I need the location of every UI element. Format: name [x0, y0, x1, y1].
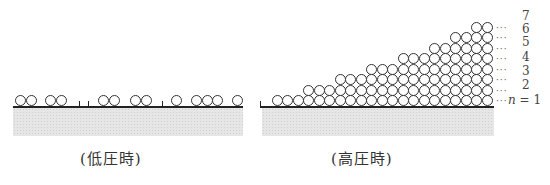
adsorbed-molecule — [482, 53, 493, 64]
adsorbed-molecule — [377, 74, 388, 85]
adsorbed-molecule — [419, 53, 430, 64]
layer-leader-dots: ··· — [496, 54, 508, 64]
adsorbed-molecule — [377, 85, 388, 96]
adsorbed-molecule — [440, 53, 451, 64]
adsorbed-molecule — [419, 64, 430, 75]
adsorbed-molecule — [398, 53, 409, 64]
adsorbed-molecule — [429, 53, 440, 64]
adsorbed-molecule — [471, 43, 482, 54]
adsorbed-molecule — [482, 85, 493, 96]
adsorbed-molecule — [282, 95, 293, 106]
layer-leader-dots: ··· — [496, 44, 508, 54]
layer-label-1: n = 1 — [508, 95, 541, 106]
adsorbed-molecule — [461, 32, 472, 43]
adsorbed-molecule — [429, 43, 440, 54]
high-pressure-panel: ························ 7 6 5 4 3 2 n =… — [0, 0, 550, 185]
adsorbed-molecule — [471, 32, 482, 43]
layer-variable-n: n — [508, 93, 516, 107]
layer-label-5: 5 — [522, 37, 530, 48]
adsorbed-molecule — [366, 95, 377, 106]
layer-leader-dots: ··· — [496, 75, 508, 85]
adsorbed-molecule — [450, 85, 461, 96]
adsorbed-molecule — [429, 74, 440, 85]
adsorbed-molecule — [461, 43, 472, 54]
adsorbed-molecule — [356, 95, 367, 106]
adsorbed-molecule — [398, 95, 409, 106]
adsorbed-molecule — [461, 95, 472, 106]
adsorbed-molecule — [314, 95, 325, 106]
adsorbed-molecule — [408, 74, 419, 85]
adsorbed-molecule — [461, 64, 472, 75]
layer-label-2: 2 — [522, 80, 530, 91]
adsorbed-molecule — [387, 64, 398, 75]
adsorbed-molecule — [398, 85, 409, 96]
adsorbed-molecule — [482, 95, 493, 106]
adsorbed-molecule — [471, 53, 482, 64]
adsorbed-molecule — [377, 64, 388, 75]
adsorbed-molecule — [387, 85, 398, 96]
layer-label-1-value: = 1 — [520, 93, 542, 107]
adsorbed-molecule — [450, 32, 461, 43]
adsorbed-molecule — [440, 95, 451, 106]
adsorbed-molecule — [387, 95, 398, 106]
layer-label-6: 6 — [522, 24, 530, 35]
adsorbed-molecule — [482, 32, 493, 43]
high-pressure-surface-edge — [260, 101, 261, 106]
layer-label-7: 7 — [522, 11, 530, 22]
adsorbed-molecule — [450, 95, 461, 106]
adsorbed-molecule — [471, 74, 482, 85]
adsorbed-molecule — [461, 53, 472, 64]
adsorbed-molecule — [482, 64, 493, 75]
adsorbed-molecule — [429, 85, 440, 96]
adsorbed-molecule — [408, 53, 419, 64]
adsorbed-molecule — [471, 64, 482, 75]
adsorbed-molecule — [482, 22, 493, 33]
adsorbed-molecule — [398, 64, 409, 75]
adsorbed-molecule — [482, 43, 493, 54]
adsorbed-molecule — [314, 85, 325, 96]
adsorbed-molecule — [408, 95, 419, 106]
adsorbed-molecule — [471, 22, 482, 33]
adsorbed-molecule — [366, 74, 377, 85]
adsorbed-molecule — [419, 85, 430, 96]
adsorbed-molecule — [293, 95, 304, 106]
adsorbed-molecule — [345, 74, 356, 85]
layer-leader-dots: ··· — [496, 86, 508, 96]
adsorbed-molecule — [335, 74, 346, 85]
layer-leader-dots: ··· — [496, 65, 508, 75]
adsorbed-molecule — [440, 43, 451, 54]
adsorbed-molecule — [324, 85, 335, 96]
adsorbed-molecule — [450, 53, 461, 64]
high-pressure-caption: (高圧時) — [331, 147, 393, 168]
adsorbed-molecule — [450, 74, 461, 85]
adsorbed-molecule — [408, 85, 419, 96]
adsorbed-molecule — [471, 85, 482, 96]
adsorbed-molecule — [482, 74, 493, 85]
adsorbed-molecule — [324, 95, 335, 106]
adsorbed-molecule — [419, 95, 430, 106]
adsorbed-molecule — [461, 85, 472, 96]
adsorbed-molecule — [419, 74, 430, 85]
adsorbed-molecule — [356, 85, 367, 96]
adsorbed-molecule — [356, 74, 367, 85]
adsorbed-molecule — [429, 64, 440, 75]
adsorbed-molecule — [366, 64, 377, 75]
layer-leader-dots: ··· — [496, 23, 508, 33]
adsorbed-molecule — [471, 95, 482, 106]
layer-leader-dots: ··· — [496, 96, 508, 106]
adsorbed-molecule — [398, 74, 409, 85]
adsorbed-molecule — [345, 95, 356, 106]
adsorbed-molecule — [408, 64, 419, 75]
adsorbed-molecule — [450, 64, 461, 75]
adsorbed-molecule — [429, 95, 440, 106]
adsorbed-molecule — [450, 43, 461, 54]
adsorbed-molecule — [272, 95, 283, 106]
adsorbed-molecule — [335, 85, 346, 96]
layer-label-4: 4 — [522, 52, 530, 63]
adsorbed-molecule — [345, 85, 356, 96]
layer-leader-dots: ··· — [496, 33, 508, 43]
adsorbed-molecule — [377, 95, 388, 106]
adsorbed-molecule — [387, 74, 398, 85]
adsorbed-molecule — [335, 95, 346, 106]
adsorbed-molecule — [303, 95, 314, 106]
